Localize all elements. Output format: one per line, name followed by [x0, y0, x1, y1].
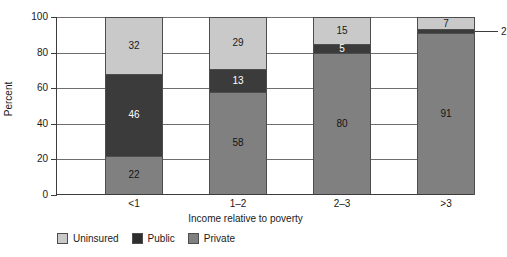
bar-segment-label: 46: [128, 110, 139, 120]
x-tick-label-lt1: <1: [105, 199, 163, 209]
y-tick-label-40: 40: [37, 119, 48, 129]
callout-label-2: 2: [501, 27, 507, 37]
bar-segment-public[interactable]: 13: [209, 69, 267, 92]
bar-segment-private[interactable]: 58: [209, 92, 267, 195]
bar-segment-label: 58: [232, 138, 243, 148]
y-tick-label-60: 60: [37, 83, 48, 93]
legend-item-public[interactable]: Public: [132, 233, 175, 244]
bar-group-1-2[interactable]: 29 13 58: [209, 17, 267, 195]
legend-label: Private: [204, 234, 235, 244]
y-axis-title: Percent: [4, 82, 14, 116]
x-axis-title: Income relative to poverty: [0, 214, 491, 224]
legend-swatch-icon: [57, 233, 68, 244]
bar-segment-private[interactable]: 22: [105, 156, 163, 195]
legend-swatch-icon: [188, 233, 199, 244]
legend: Uninsured Public Private: [57, 233, 235, 244]
y-tick-label-100: 100: [31, 12, 48, 22]
legend-label: Public: [148, 234, 175, 244]
bar-group-lt1[interactable]: 32 46 22: [105, 17, 163, 195]
y-tick-label-80: 80: [37, 48, 48, 58]
x-tick-label-1-2: 1–2: [209, 199, 267, 209]
x-axis-spine: [56, 194, 473, 195]
y-tick-label-20: 20: [37, 154, 48, 164]
legend-swatch-icon: [132, 233, 143, 244]
x-tick-label-2-3: 2–3: [313, 199, 371, 209]
plot-area: 100 80 60 40 20 0 32 46: [57, 17, 472, 195]
legend-item-uninsured[interactable]: Uninsured: [57, 233, 119, 244]
bar-segment-uninsured[interactable]: 7: [417, 17, 475, 29]
bar-group-2-3[interactable]: 15 5 80: [313, 17, 371, 195]
bar-segment-uninsured[interactable]: 32: [105, 17, 163, 74]
bar-segment-label: 15: [336, 26, 347, 36]
bar-segment-label: 13: [232, 76, 243, 86]
bar-segment-private[interactable]: 80: [313, 53, 371, 195]
bar-segment-public[interactable]: 5: [313, 44, 371, 53]
x-tick-label-gt3: >3: [417, 199, 475, 209]
bar-segment-label: 7: [443, 19, 449, 29]
callout-leader-line: [475, 31, 498, 32]
bar-segment-label: 32: [128, 41, 139, 51]
legend-item-private[interactable]: Private: [188, 233, 235, 244]
bar-segment-label: 91: [440, 109, 451, 119]
y-axis-spine: [56, 17, 57, 195]
bar-segment-uninsured[interactable]: 15: [313, 17, 371, 44]
bar-segment-label: 22: [128, 170, 139, 180]
bar-segment-label: 80: [336, 119, 347, 129]
y-tick-label-0: 0: [42, 190, 48, 200]
bar-segment-label: 29: [232, 38, 243, 48]
bar-segment-public[interactable]: 46: [105, 74, 163, 156]
legend-label: Uninsured: [73, 234, 119, 244]
bar-group-gt3[interactable]: 7 2 91: [417, 17, 475, 195]
bar-segment-private[interactable]: 91: [417, 33, 475, 195]
bar-segment-uninsured[interactable]: 29: [209, 17, 267, 69]
